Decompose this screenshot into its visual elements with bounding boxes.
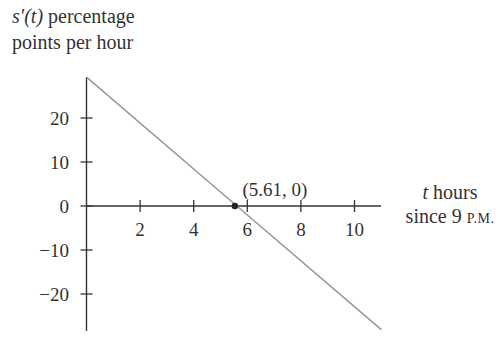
zero-point-marker (232, 203, 238, 209)
y-tick-label: −20 (39, 284, 69, 305)
y-tick-label: 0 (60, 196, 70, 217)
chart-plot-area: 24681020100−10−20(5.61, 0) (0, 0, 504, 347)
y-tick-label: 20 (50, 108, 69, 129)
x-tick-label: 8 (296, 219, 306, 240)
x-tick-label: 10 (345, 219, 364, 240)
y-tick-label: 10 (50, 152, 69, 173)
y-tick-label: −10 (39, 240, 69, 261)
zero-point-label: (5.61, 0) (242, 179, 307, 201)
x-tick-label: 2 (135, 219, 145, 240)
x-tick-label: 4 (189, 219, 199, 240)
x-tick-label: 6 (243, 219, 253, 240)
